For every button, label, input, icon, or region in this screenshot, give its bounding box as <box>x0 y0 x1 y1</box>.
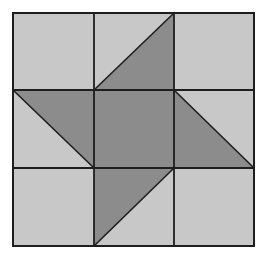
quilt-block-diagram <box>0 0 269 257</box>
center-square <box>94 90 174 168</box>
